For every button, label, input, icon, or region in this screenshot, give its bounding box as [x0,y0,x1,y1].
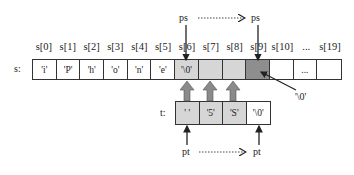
arrows-overlay [0,0,354,175]
null-annotation-arrow-icon [261,72,296,90]
copy-block-arrow-icon [180,81,240,101]
